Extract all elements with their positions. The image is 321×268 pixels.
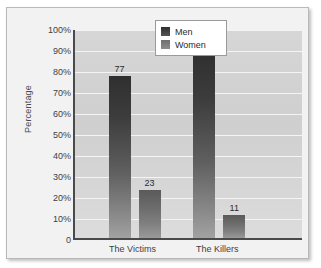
legend-swatch-icon xyxy=(161,27,170,36)
y-tick-label: 80% xyxy=(29,67,71,77)
x-tick-label: The Killers xyxy=(177,244,257,254)
legend-label: Men xyxy=(175,27,193,37)
y-tick-label: 70% xyxy=(29,88,71,98)
y-tick-label: 0 xyxy=(29,235,71,245)
y-tick-label: 20% xyxy=(29,193,71,203)
bar-value-label: 77 xyxy=(100,64,140,74)
bar-series-container: 77238911 xyxy=(75,30,302,238)
bar xyxy=(193,51,215,238)
legend-swatch-icon xyxy=(161,40,170,49)
x-axis-tick-labels: The VictimsThe Killers xyxy=(73,244,302,258)
x-tick-label: The Victims xyxy=(93,244,173,254)
bar xyxy=(223,215,245,238)
plot-area: 77238911 xyxy=(73,30,302,240)
y-tick-label: 10% xyxy=(29,214,71,224)
bar-value-label: 23 xyxy=(130,178,170,188)
y-tick-label: 50% xyxy=(29,130,71,140)
legend-item: Women xyxy=(161,38,221,51)
chart-figure: Percentage 100%90%80%70%60%50%40%30%20%1… xyxy=(6,7,309,259)
y-tick-label: 40% xyxy=(29,151,71,161)
y-tick-label: 30% xyxy=(29,172,71,182)
y-tick-label: 100% xyxy=(29,25,71,35)
bar xyxy=(109,76,131,238)
y-tick-label: 90% xyxy=(29,46,71,56)
y-axis-tick-labels: 100%90%80%70%60%50%40%30%20%10%0 xyxy=(29,30,71,240)
bar xyxy=(139,190,161,238)
bar-value-label: 11 xyxy=(214,203,254,213)
chart-legend: MenWomen xyxy=(155,20,227,56)
y-tick-label: 60% xyxy=(29,109,71,119)
legend-label: Women xyxy=(175,40,206,50)
legend-item: Men xyxy=(161,25,221,38)
